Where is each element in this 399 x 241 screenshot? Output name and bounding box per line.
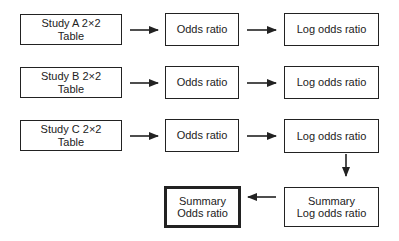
study-a-odds-ratio-node: Odds ratio (165, 13, 239, 46)
node-label-line1: Summary (297, 195, 367, 208)
study-c-log-odds-ratio-node: Log odds ratio (284, 119, 379, 153)
node-label-line1: Study A 2×2 (41, 17, 100, 30)
node-label-line2: Table (41, 136, 102, 149)
study-a-log-odds-ratio-node: Log odds ratio (284, 13, 379, 46)
node-label-line1: Study C 2×2 (41, 123, 102, 136)
node-label-line2: Table (41, 30, 100, 43)
study-b-log-odds-ratio-node: Log odds ratio (284, 66, 379, 99)
study-b-odds-ratio-node: Odds ratio (165, 66, 239, 99)
study-c-odds-ratio-node: Odds ratio (165, 119, 239, 152)
node-label-line2: Table (41, 83, 101, 96)
study-a-table-node: Study A 2×2 Table (20, 14, 122, 45)
node-label: Log odds ratio (297, 23, 367, 36)
node-label-line1: Summary (177, 195, 228, 208)
summary-log-odds-ratio-node: Summary Log odds ratio (284, 187, 379, 227)
node-label: Odds ratio (177, 23, 228, 36)
study-b-table-node: Study B 2×2 Table (20, 67, 122, 98)
node-label: Log odds ratio (297, 76, 367, 89)
node-label: Odds ratio (177, 129, 228, 142)
node-label: Odds ratio (177, 76, 228, 89)
node-label-line2: Odds ratio (177, 207, 228, 220)
node-label-line1: Study B 2×2 (41, 70, 101, 83)
node-label: Log odds ratio (297, 130, 367, 143)
summary-odds-ratio-node: Summary Odds ratio (164, 186, 241, 228)
node-label-line2: Log odds ratio (297, 207, 367, 220)
study-c-table-node: Study C 2×2 Table (20, 120, 122, 151)
